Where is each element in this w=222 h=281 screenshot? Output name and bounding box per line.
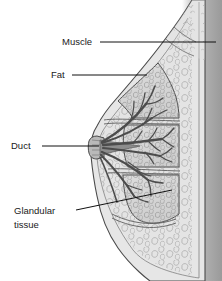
label-duct: Duct xyxy=(11,140,31,151)
label-glandular-tissue-line1: Glandular xyxy=(14,205,55,216)
breast-anatomy-figure: Muscle Fat Duct Glandular tissue xyxy=(0,0,222,281)
label-fat: Fat xyxy=(51,69,65,80)
label-muscle: Muscle xyxy=(62,36,92,47)
anatomy-illustration: Muscle Fat Duct Glandular tissue xyxy=(0,0,222,281)
label-glandular-tissue-line2: tissue xyxy=(14,219,39,230)
